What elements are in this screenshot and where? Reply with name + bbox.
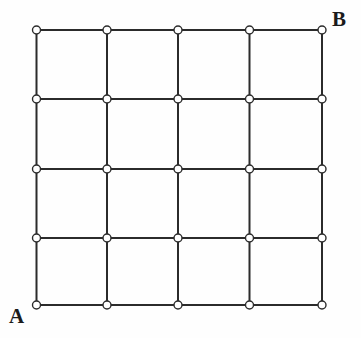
grid-node-r2-c1: [103, 165, 111, 173]
grid-node-r0-c2: [174, 26, 182, 34]
grid-node-r4-c2: [174, 301, 182, 309]
vertex-label-b: B: [332, 9, 346, 30]
grid-node-r0-c0: [33, 26, 41, 34]
grid-node-r3-c0: [33, 234, 41, 242]
grid-node-r2-c2: [174, 165, 182, 173]
grid-node-r0-c1: [103, 26, 111, 34]
grid-node-r2-c3: [246, 165, 254, 173]
grid-node-r3-c3: [246, 234, 254, 242]
grid-node-r4-c1: [103, 301, 111, 309]
grid-node-r3-c1: [103, 234, 111, 242]
grid-node-r1-c4: [318, 95, 326, 103]
grid-node-r1-c2: [174, 95, 182, 103]
lattice-diagram-figure: A B: [0, 0, 361, 338]
grid-node-r2-c4: [318, 165, 326, 173]
grid-nodes-group: [33, 26, 327, 309]
grid-node-r2-c0: [33, 165, 41, 173]
grid-node-r1-c0: [33, 95, 41, 103]
vertex-label-a: A: [9, 306, 24, 327]
grid-node-r3-c2: [174, 234, 182, 242]
grid-node-r4-c0: [33, 301, 41, 309]
grid-node-r0-c3: [246, 26, 254, 34]
grid-node-r0-c4: [318, 26, 326, 34]
grid-node-r4-c4: [318, 301, 326, 309]
grid-node-r1-c1: [103, 95, 111, 103]
grid-node-r3-c4: [318, 234, 326, 242]
grid-node-r4-c3: [246, 301, 254, 309]
lattice-grid-graphic: [0, 0, 361, 338]
grid-node-r1-c3: [246, 95, 254, 103]
